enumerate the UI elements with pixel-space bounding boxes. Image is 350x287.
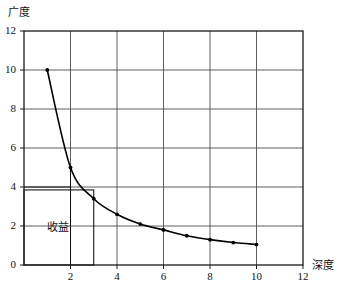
y-tick-label: 4 xyxy=(0,180,16,192)
y-tick-label: 10 xyxy=(0,63,16,75)
x-tick-label: 8 xyxy=(201,270,219,282)
data-point xyxy=(115,212,119,216)
x-tick-label: 4 xyxy=(108,270,126,282)
data-point xyxy=(162,228,166,232)
y-tick-label: 2 xyxy=(0,219,16,231)
y-tick-label: 0 xyxy=(0,258,16,270)
data-point xyxy=(208,238,212,242)
y-tick-label: 6 xyxy=(0,141,16,153)
x-tick-label: 6 xyxy=(155,270,173,282)
revenue-rectangle xyxy=(24,190,94,265)
data-series-points xyxy=(45,68,258,246)
x-tick-label: 12 xyxy=(294,270,312,282)
x-tick-label: 2 xyxy=(62,270,80,282)
axis-ticks xyxy=(20,31,303,269)
data-point xyxy=(231,241,235,245)
data-point xyxy=(69,166,73,170)
chart-figure: 广度 深度 收益 02468101224681012 xyxy=(0,0,350,287)
data-point xyxy=(45,68,49,72)
chart-plot-area xyxy=(0,0,350,287)
series-line xyxy=(47,70,256,245)
data-point xyxy=(185,234,189,238)
x-tick-label: 10 xyxy=(248,270,266,282)
data-series-line xyxy=(47,70,256,245)
data-point xyxy=(92,197,96,201)
annotation-shapes xyxy=(24,168,94,266)
data-point xyxy=(138,222,142,226)
y-tick-label: 8 xyxy=(0,102,16,114)
y-tick-label: 12 xyxy=(0,24,16,36)
data-point xyxy=(255,243,259,247)
